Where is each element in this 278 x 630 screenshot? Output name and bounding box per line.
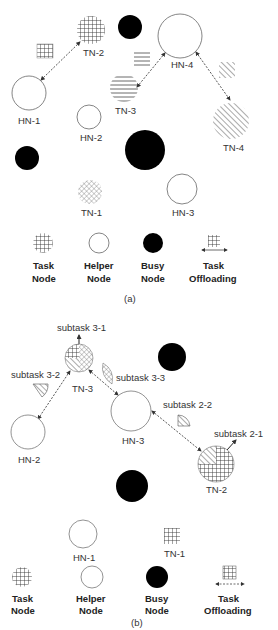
legend-b: Task Node Helper Node Busy Node Task Off… <box>11 566 252 616</box>
helper-node-hn2[interactable] <box>77 105 101 129</box>
subtask-wedge <box>178 415 190 426</box>
panel-b: subtask 3-1 TN-3 subtask 3-2 subtask 3-3… <box>11 322 263 628</box>
svg-text:Node: Node <box>87 273 111 284</box>
busy-node <box>118 15 142 39</box>
svg-text:Helper: Helper <box>76 593 106 604</box>
svg-text:Node: Node <box>145 605 169 616</box>
busy-node <box>15 146 39 170</box>
helper-node-hn2[interactable] <box>11 415 45 449</box>
subtask-wedge <box>33 384 48 397</box>
helper-node-hn3[interactable] <box>167 174 197 204</box>
helper-node-hn3[interactable] <box>111 391 151 431</box>
node-label: TN-4 <box>223 142 244 153</box>
node-label: TN-2 <box>83 47 104 58</box>
node-label: HN-1 <box>73 552 95 563</box>
busy-node <box>158 343 186 371</box>
svg-text:Offloading: Offloading <box>204 605 252 616</box>
task-node-icon <box>12 567 32 587</box>
svg-text:Busy: Busy <box>145 593 169 604</box>
helper-node-hn1[interactable] <box>69 520 97 548</box>
task-node-icon <box>33 233 53 253</box>
svg-text:Node: Node <box>79 605 103 616</box>
task-offloading-icon <box>216 566 244 584</box>
task-offloading-icon <box>202 235 227 250</box>
svg-text:Task: Task <box>218 593 240 604</box>
node-label: TN-2 <box>206 484 227 495</box>
svg-text:Node: Node <box>141 273 165 284</box>
subtask-label: subtask 3-3 <box>116 372 165 383</box>
subtask-label: subtask 3-1 <box>57 322 106 333</box>
subtask-wedge <box>102 363 112 384</box>
node-label: TN-3 <box>115 105 136 116</box>
helper-node-icon <box>81 566 103 588</box>
caption-b: (b) <box>131 617 143 628</box>
panel-a: TN-2 HN-1 HN-4 TN-3 TN-4 HN-2 TN-1 <box>12 14 249 304</box>
svg-text:Node: Node <box>11 605 35 616</box>
task-square-icon <box>219 62 235 78</box>
busy-node-icon <box>146 566 168 588</box>
node-label: HN-4 <box>171 59 193 70</box>
node-label: HN-3 <box>172 207 194 218</box>
task-node-tn1[interactable] <box>78 180 102 204</box>
node-label: HN-3 <box>122 435 144 446</box>
subtask-label: subtask 2-2 <box>163 399 212 410</box>
helper-node-hn4[interactable] <box>158 14 202 58</box>
busy-node <box>116 470 148 502</box>
task-node-tn3[interactable] <box>110 74 138 102</box>
node-label: HN-2 <box>18 454 40 465</box>
caption-a: (a) <box>124 293 136 304</box>
svg-text:Task: Task <box>12 593 34 604</box>
task-node-tn1[interactable] <box>164 528 180 544</box>
node-label: TN-3 <box>72 383 93 394</box>
busy-node-icon <box>143 233 163 253</box>
helper-node-hn1[interactable] <box>12 76 46 110</box>
node-label: TN-1 <box>81 207 102 218</box>
node-label: HN-2 <box>80 132 102 143</box>
task-node-tn2[interactable] <box>77 16 105 44</box>
svg-text:Offloading: Offloading <box>189 273 237 284</box>
svg-text:Busy: Busy <box>141 260 165 271</box>
subtask-label: subtask 2-1 <box>214 428 263 439</box>
svg-text:Helper: Helper <box>84 260 114 271</box>
task-square-icon <box>37 44 53 58</box>
svg-text:Node: Node <box>32 273 56 284</box>
task-node-tn4[interactable] <box>213 103 249 139</box>
busy-node <box>125 130 165 170</box>
svg-text:Task: Task <box>203 260 225 271</box>
subtask-label: subtask 3-2 <box>11 369 60 380</box>
svg-text:Task: Task <box>33 260 55 271</box>
offload-arrow <box>152 411 201 451</box>
node-label: HN-1 <box>18 115 40 126</box>
task-square-icon <box>134 50 150 66</box>
legend-a: Task Node Helper Node Busy Node Task Off… <box>32 233 237 284</box>
node-label: TN-1 <box>164 548 185 559</box>
helper-node-icon <box>89 233 109 253</box>
